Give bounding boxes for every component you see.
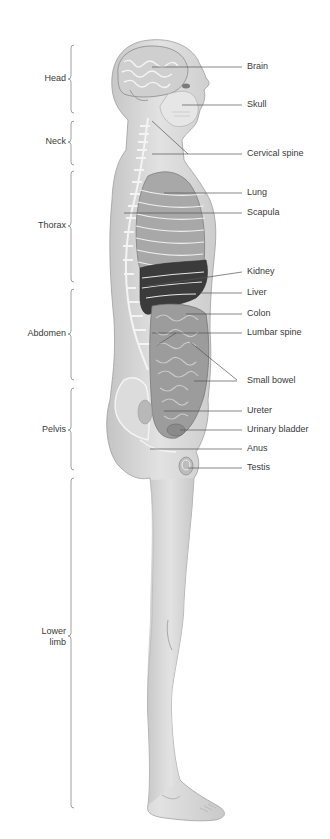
region-label-head: Head (44, 73, 66, 84)
part-label-testis: Testis (247, 462, 270, 473)
part-label-colon: Colon (247, 308, 271, 319)
part-label-liver: Liver (247, 287, 267, 298)
part-label-scapula: Scapula (247, 207, 280, 218)
part-label-kidney: Kidney (247, 266, 275, 277)
region-brackets (68, 45, 74, 808)
anatomy-figure (0, 0, 330, 839)
part-label-brain: Brain (247, 61, 268, 72)
part-label-skull: Skull (247, 99, 267, 110)
region-label-lower-limb-line1: Lower (41, 626, 66, 637)
part-label-ureter: Ureter (247, 405, 272, 416)
part-label-anus: Anus (247, 443, 268, 454)
region-label-neck: Neck (45, 136, 66, 147)
region-label-pelvis: Pelvis (42, 424, 66, 435)
part-label-lumbar-spine: Lumbar spine (247, 327, 302, 338)
leg-illustration (147, 478, 216, 812)
part-label-lung: Lung (247, 187, 267, 198)
testis-illustration (179, 457, 193, 475)
region-label-abdomen: Abdomen (27, 328, 66, 339)
part-label-small-bowel: Small bowel (247, 375, 296, 386)
part-label-cervical-spine: Cervical spine (247, 148, 304, 159)
part-label-urinary-bladder: Urinary bladder (247, 424, 309, 435)
region-label-lower-limb: Lower limb (41, 626, 66, 648)
region-label-lower-limb-line2: limb (41, 637, 66, 648)
region-label-thorax: Thorax (38, 220, 66, 231)
